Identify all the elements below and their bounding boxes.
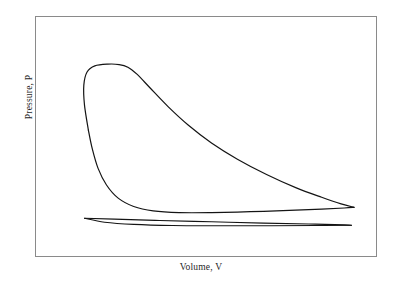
plot-frame [35, 16, 377, 257]
figure-root: Pressure, P Volume, V [0, 0, 402, 285]
y-axis-label: Pressure, P [24, 42, 34, 152]
x-axis-label: Volume, V [0, 262, 402, 272]
